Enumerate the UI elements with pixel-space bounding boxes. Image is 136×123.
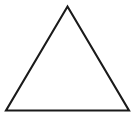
figure-canvas xyxy=(0,0,136,123)
triangle-figure xyxy=(0,0,136,123)
canvas-background xyxy=(0,0,136,123)
